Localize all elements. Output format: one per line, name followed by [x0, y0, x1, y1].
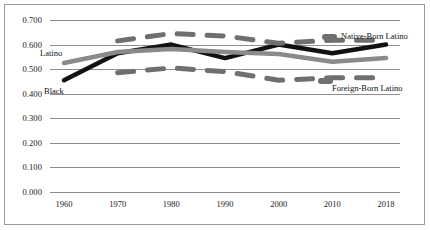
- x-tick-label-2010: 2010: [324, 199, 341, 209]
- x-tick-label-2000: 2000: [270, 199, 287, 209]
- y-tick-label-0.700: 0.700: [22, 15, 42, 25]
- y-tick-label-0.400: 0.400: [22, 89, 42, 99]
- y-tick-label-0.500: 0.500: [22, 64, 42, 74]
- series-label-native-born-latino: Native-Born Latino: [341, 31, 408, 41]
- x-tick-label-1990: 1990: [217, 199, 234, 209]
- x-tick-label-2018: 2018: [378, 199, 395, 209]
- plot-area: 0.0000.1000.2000.3000.4000.5000.6000.700…: [50, 20, 400, 192]
- legend-swatch-native-born-latino: [322, 34, 337, 40]
- series-label-latino: Latino: [40, 48, 62, 58]
- y-tick-label-0.000: 0.000: [22, 187, 42, 197]
- series-label-black: Black: [44, 86, 64, 96]
- y-tick-label-0.300: 0.300: [22, 113, 42, 123]
- series-line-foreign-born-latino: [118, 68, 386, 80]
- x-tick-label-1970: 1970: [109, 199, 126, 209]
- chart-figure: 0.0000.1000.2000.3000.4000.5000.6000.700…: [0, 0, 430, 230]
- x-tick-label-1960: 1960: [56, 199, 73, 209]
- y-tick-label-0.100: 0.100: [22, 162, 42, 172]
- gridline-0.000: [50, 192, 400, 193]
- legend-swatch-foreign-born-latino: [318, 78, 333, 84]
- series-label-foreign-born-latino: Foreign-Born Latino: [332, 83, 403, 93]
- series-lines: [50, 20, 400, 192]
- x-tick-label-1980: 1980: [163, 199, 180, 209]
- y-tick-label-0.200: 0.200: [22, 138, 42, 148]
